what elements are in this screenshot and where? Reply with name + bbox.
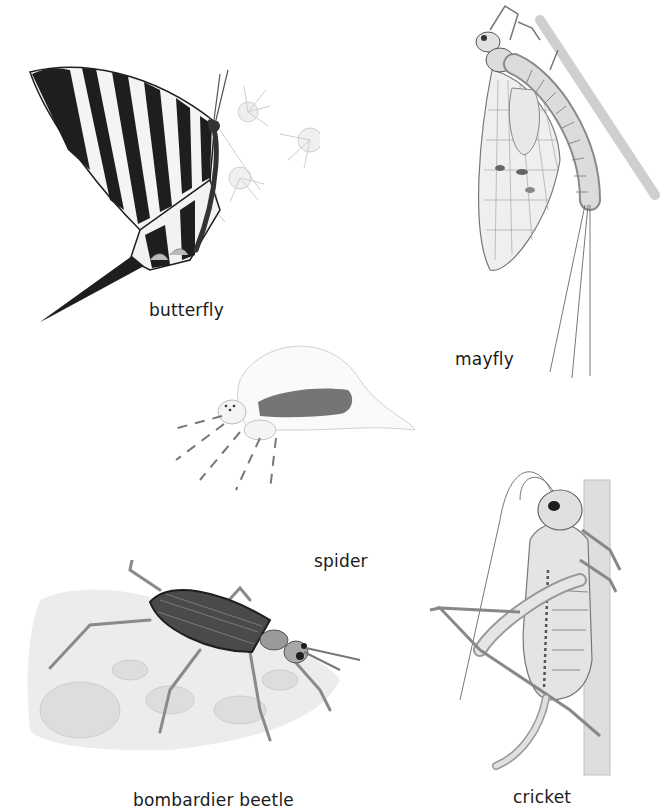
mayfly-illustration bbox=[440, 0, 671, 380]
spider-icon bbox=[160, 320, 420, 500]
butterfly-label: butterfly bbox=[149, 300, 224, 320]
bombardier-beetle-icon bbox=[20, 560, 380, 760]
cricket-icon bbox=[420, 460, 671, 780]
cricket-label: cricket bbox=[513, 787, 571, 807]
bombardier-beetle-label: bombardier beetle bbox=[133, 790, 294, 810]
spider-illustration bbox=[160, 320, 420, 500]
cricket-illustration bbox=[420, 460, 671, 780]
mayfly-label: mayfly bbox=[455, 349, 514, 369]
butterfly-illustration bbox=[20, 60, 320, 330]
butterfly-icon bbox=[20, 60, 320, 330]
mayfly-icon bbox=[440, 0, 671, 380]
bombardier-beetle-illustration bbox=[20, 560, 380, 760]
